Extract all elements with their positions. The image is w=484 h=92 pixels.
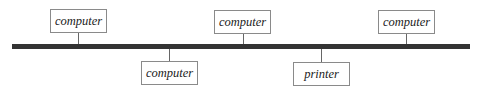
node-computer: computer: [141, 61, 198, 85]
node-label: computer: [55, 14, 102, 29]
node-label: computer: [383, 15, 430, 30]
node-label: computer: [219, 15, 266, 30]
node-computer: computer: [50, 9, 107, 33]
node-computer: computer: [214, 10, 271, 34]
connector-bottom-1: [169, 49, 170, 61]
node-label: printer: [304, 67, 339, 82]
node-printer: printer: [293, 62, 350, 86]
node-computer: computer: [378, 10, 435, 34]
connector-top-2: [243, 34, 244, 44]
connector-top-3: [406, 34, 407, 44]
node-label: computer: [146, 66, 193, 81]
connector-top-1: [78, 33, 79, 44]
network-bus-line: [12, 44, 470, 49]
connector-bottom-2: [321, 49, 322, 62]
